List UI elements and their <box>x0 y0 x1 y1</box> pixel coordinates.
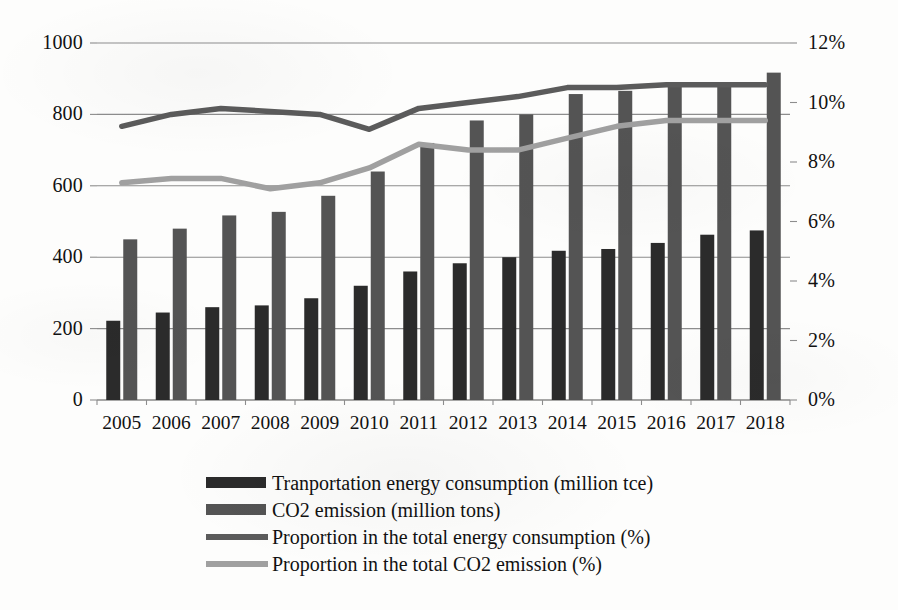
bar-co2-2015 <box>618 91 632 400</box>
legend-marker <box>206 561 268 567</box>
bar-co2-2009 <box>321 196 335 400</box>
bar-energy-2017 <box>700 235 714 400</box>
bar-co2-2010 <box>371 172 385 400</box>
chart-legend: Tranportation energy consumption (millio… <box>206 470 846 578</box>
bar-co2-2012 <box>470 120 484 400</box>
bar-co2-2018 <box>767 73 781 400</box>
bar-energy-2015 <box>601 249 615 400</box>
bar-energy-2016 <box>651 243 665 400</box>
bar-energy-2012 <box>453 263 467 400</box>
bar-co2-2011 <box>420 143 434 400</box>
bar-co2-2016 <box>668 84 682 400</box>
bar-energy-2010 <box>354 286 368 400</box>
bar-energy-2009 <box>304 298 318 400</box>
legend-item-label: Proportion in the total energy consumpti… <box>272 526 650 548</box>
legend-marker <box>206 504 266 515</box>
legend-marker <box>206 534 268 540</box>
bar-energy-2008 <box>255 305 269 400</box>
legend-swatch-bar-icon <box>206 477 268 488</box>
bar-energy-2006 <box>156 313 170 400</box>
legend-item[interactable]: Proportion in the total energy consumpti… <box>206 524 846 549</box>
legend-marker <box>206 477 266 488</box>
legend-item-label: Proportion in the total CO2 emission (%) <box>272 553 602 575</box>
legend-item-label: Tranportation energy consumption (millio… <box>272 472 653 494</box>
bar-co2-2007 <box>222 215 236 400</box>
legend-item-label: CO2 emission (million tons) <box>272 499 500 521</box>
bar-co2-2006 <box>173 229 187 400</box>
legend-swatch-bar-icon <box>206 504 268 515</box>
legend-item[interactable]: Proportion in the total CO2 emission (%) <box>206 551 846 576</box>
bar-co2-2013 <box>519 114 533 400</box>
bar-energy-2005 <box>106 321 120 400</box>
legend-item[interactable]: CO2 emission (million tons) <box>206 497 846 522</box>
legend-swatch-line-icon <box>206 561 268 567</box>
bar-co2-2005 <box>123 239 137 400</box>
bar-co2-2008 <box>272 212 286 400</box>
bar-energy-2013 <box>502 257 516 400</box>
bar-co2-2017 <box>717 83 731 400</box>
legend-swatch-line-icon <box>206 534 268 540</box>
bar-energy-2014 <box>552 251 566 400</box>
bar-energy-2007 <box>205 307 219 400</box>
bar-energy-2011 <box>403 271 417 400</box>
legend-item[interactable]: Tranportation energy consumption (millio… <box>206 470 846 495</box>
combo-chart: 02004006008001000 0%2%4%6%8%10%12% 20052… <box>0 0 898 610</box>
bar-energy-2018 <box>750 230 764 400</box>
